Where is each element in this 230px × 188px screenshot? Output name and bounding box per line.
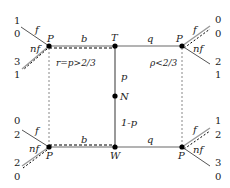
node-bottom-left [46,144,51,149]
label-top-right-nf: nf [193,43,205,54]
node-top-mid [112,43,117,48]
payoff-bottom-right-nf-2: 0 [215,171,221,182]
node-bottom-right [179,144,184,149]
payoff-bottom-left-nf-1: 2 [14,157,20,168]
payoff-top-left-nf-2: 1 [14,69,20,80]
label-region-right: ρ<2/3 [149,58,178,68]
payoff-top-right-nf-2: 1 [215,69,221,80]
node-mid [112,93,117,98]
label-node-bottom-left: P [45,150,53,161]
payoff-top-left-f-1: 1 [14,15,20,26]
label-bottom-right-nf: nf [193,144,205,155]
payoff-top-right-nf-1: 2 [215,56,221,67]
label-node-top-right: P [175,33,183,44]
label-bottom-right-f: f [192,124,199,135]
payoff-bottom-left-f-2: 2 [14,129,20,140]
payoff-bottom-right-f-1: 1 [215,115,221,126]
label-node-mid: N [119,91,130,102]
payoff-top-right-f-2: 0 [215,28,221,39]
label-node-bottom-mid: W [110,150,121,161]
payoff-bottom-left-f-1: 0 [14,115,20,126]
payoff-bottom-right-f-2: 2 [215,129,221,140]
payoff-bottom-right-nf-1: 3 [215,157,221,168]
label-edge-top-q: q [147,33,153,44]
label-edge-top-b: b [81,33,87,44]
label-edge-bottom-q: q [147,134,153,145]
label-bottom-left-nf: nf [29,143,41,154]
label-node-top-mid: T [111,32,119,43]
node-top-right [179,43,184,48]
game-tree-diagram: P T P N P W P b q b q p 1-p r=p>2/3 ρ<2/… [0,0,230,188]
label-node-bottom-right: P [177,150,185,161]
payoff-top-right-f-1: 0 [215,14,221,25]
label-edge-vertical-upper: p [121,71,128,82]
node-top-left [46,43,51,48]
node-bottom-mid [112,144,117,149]
payoff-bottom-left-nf-2: 0 [14,171,20,182]
label-node-top-left: P [46,33,54,44]
label-top-left-f: f [34,24,41,35]
label-edge-vertical-lower: 1-p [121,117,138,128]
label-edge-bottom-b: b [81,134,87,145]
payoff-top-left-f-2: 0 [14,28,20,39]
label-top-right-f: f [192,24,199,35]
label-region-left: r=p>2/3 [56,58,96,68]
label-bottom-left-f: f [34,125,41,136]
payoff-top-left-nf-1: 3 [14,56,20,67]
